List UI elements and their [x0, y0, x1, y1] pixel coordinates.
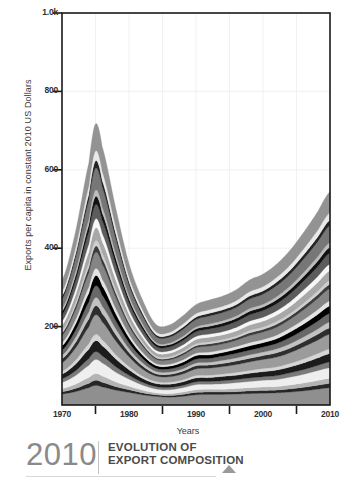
y-axis-ticks: 2004006008001.0k	[24, 0, 58, 420]
x-tick-label: 2000	[254, 409, 272, 419]
x-tick-label: 1970	[53, 409, 71, 419]
y-tick-label: 200	[24, 321, 58, 331]
y-tick-label: 600	[24, 164, 58, 174]
chart-figure: Exports per capita in constant 2010 US D…	[0, 0, 344, 478]
triangle-icon	[222, 465, 236, 473]
caption-title: EVOLUTION OF EXPORT COMPOSITION	[108, 441, 244, 467]
y-tick-label: 1.0k	[24, 7, 58, 17]
caption-divider	[98, 441, 99, 474]
y-tick-label: 800	[24, 85, 58, 95]
x-tick-label: 1990	[187, 409, 205, 419]
caption-underline	[26, 476, 216, 477]
x-axis-title: Years	[0, 426, 344, 436]
caption-title-line1: EVOLUTION OF	[108, 441, 244, 454]
x-tick-label: 1980	[120, 409, 138, 419]
x-tick-label: 2010	[321, 409, 339, 419]
caption-year: 2010	[26, 438, 97, 472]
y-tick-label: 400	[24, 242, 58, 252]
caption-block: 2010 EVOLUTION OF EXPORT COMPOSITION	[26, 440, 326, 478]
